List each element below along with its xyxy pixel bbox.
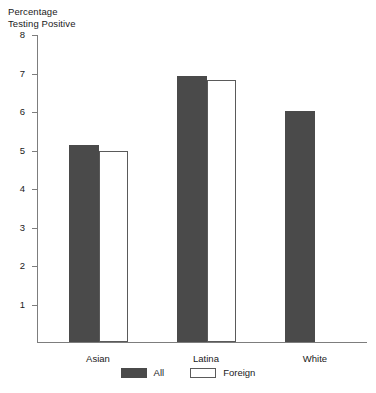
- legend-label-foreign: Foreign: [223, 368, 255, 378]
- legend-item-all: All: [121, 368, 165, 378]
- y-tick-label-3: 3: [3, 223, 25, 233]
- y-tick-8: [32, 35, 38, 36]
- y-axis-title: Percentage Testing Positive: [8, 6, 76, 29]
- legend-item-foreign: Foreign: [190, 368, 255, 378]
- plot-area: 8 7 6 5 4 3 2 1: [37, 35, 367, 343]
- legend: All Foreign: [0, 368, 376, 378]
- bar-latina-foreign: [207, 80, 236, 342]
- legend-swatch-foreign: [190, 368, 216, 378]
- y-tick-5: [32, 151, 38, 152]
- y-tick-7: [32, 74, 38, 75]
- y-tick-label-7: 7: [3, 69, 25, 79]
- y-tick-label-6: 6: [3, 107, 25, 117]
- y-tick-6: [32, 112, 38, 113]
- y-tick-label-2: 2: [3, 261, 25, 271]
- x-label-asian: Asian: [86, 354, 110, 364]
- y-tick-1: [32, 305, 38, 306]
- y-tick-label-5: 5: [3, 146, 25, 156]
- legend-label-all: All: [154, 368, 165, 378]
- bar-asian-foreign: [99, 151, 128, 342]
- bar-asian-all: [69, 145, 99, 342]
- y-tick-2: [32, 266, 38, 267]
- legend-swatch-all: [121, 368, 147, 378]
- y-tick-label-4: 4: [3, 184, 25, 194]
- y-tick-label-8: 8: [3, 30, 25, 40]
- x-label-latina: Latina: [193, 354, 219, 364]
- x-axis-line: [37, 342, 367, 343]
- y-tick-4: [32, 189, 38, 190]
- y-tick-3: [32, 228, 38, 229]
- bar-latina-all: [177, 76, 207, 342]
- bar-white-all: [285, 111, 315, 342]
- y-tick-label-1: 1: [3, 300, 25, 310]
- x-label-white: White: [303, 354, 327, 364]
- bar-chart: Percentage Testing Positive 8 7 6 5 4 3 …: [0, 0, 376, 393]
